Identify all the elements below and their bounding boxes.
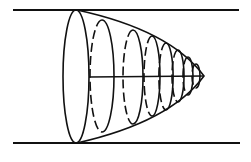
base-ellipse [63, 10, 89, 143]
ring-1 [90, 20, 114, 132]
velocity-profile-diagram [0, 0, 251, 162]
central-axis [89, 76, 204, 77]
